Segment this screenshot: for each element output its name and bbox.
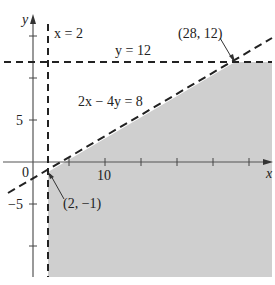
y-tick-label-5: 5: [16, 113, 23, 128]
y-axis-arrow-icon: [30, 14, 36, 24]
label-bottom-vertex: (2, −1): [63, 196, 102, 212]
x-tick-label-10: 10: [97, 168, 111, 183]
label-y-equals-12: y = 12: [115, 43, 151, 58]
y-tick-label-neg5: −5: [8, 197, 23, 212]
y-axis-label: y: [20, 12, 29, 27]
x-axis-label: x: [265, 166, 273, 181]
label-x-equals-2: x = 2: [54, 26, 83, 41]
graph-canvas: y x 0 10 5 −5 x = 2 y = 12 2x − 4y = 8 (…: [0, 0, 275, 285]
label-slanted-line: 2x − 4y = 8: [78, 94, 143, 109]
origin-label: 0: [22, 165, 29, 180]
label-top-vertex: (28, 12): [178, 26, 223, 42]
